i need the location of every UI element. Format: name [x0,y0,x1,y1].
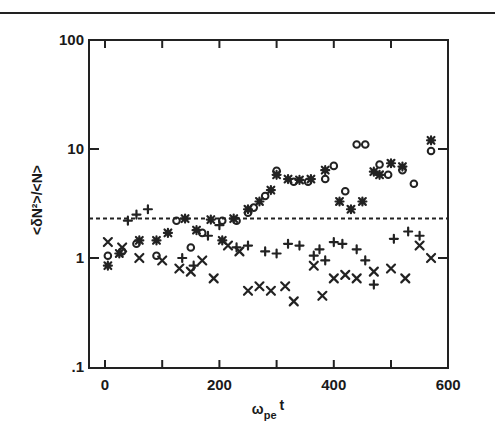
data-point-plus [390,235,398,243]
data-point-cross [341,271,349,279]
data-point-cross [104,238,112,246]
data-point-plus [338,240,346,248]
data-point-asterisk [307,175,315,183]
data-point-circle [105,252,112,259]
x-axis-label-t: t [280,397,285,413]
axis-ticks [89,40,448,368]
data-point-cross [158,256,166,264]
data-point-cross [353,274,361,282]
y-tick-label: 100 [59,31,84,48]
y-tick-label: 10 [67,140,84,157]
data-point-circle [411,180,418,187]
data-point-cross [198,256,206,264]
data-point-asterisk [207,216,215,224]
data-point-cross [255,282,263,290]
data-point-asterisk [244,205,252,213]
y-tick-label: 1 [76,249,84,266]
data-point-plus [310,252,318,260]
data-point-circle [428,148,435,155]
data-point-plus [353,245,361,253]
data-point-asterisk [347,205,355,213]
data-point-cross [210,274,218,282]
data-point-asterisk [387,159,395,167]
data-point-plus [295,242,303,250]
data-point-cross [401,274,409,282]
data-point-asterisk [104,262,112,270]
data-point-circle [342,188,349,195]
data-point-asterisk [284,175,292,183]
data-point-asterisk [336,197,344,205]
data-point-circle [331,163,338,170]
data-point-asterisk [135,236,143,244]
data-point-circle [353,141,360,148]
data-point-asterisk [230,215,238,223]
data-point-circle [322,176,329,183]
data-point-plus [404,228,412,236]
data-point-cross [135,254,143,262]
data-point-circle [376,161,383,168]
data-point-asterisk [193,226,201,234]
data-point-plus [215,221,223,229]
y-axis-label: <δN²>/<N> [29,165,45,235]
data-point-asterisk [398,163,406,171]
data-point-plus [132,211,140,219]
x-tick-label: 0 [101,376,109,393]
data-point-circle [188,244,195,251]
data-point-cross [310,262,318,270]
data-point-asterisk [181,215,189,223]
data-point-asterisk [152,236,160,244]
data-point-asterisk [273,171,281,179]
data-point-plus [273,249,281,257]
data-point-cross [281,282,289,290]
x-tick-label: 400 [321,376,346,393]
data-point-cross [187,268,195,276]
data-point-asterisk [321,166,329,174]
data-point-circle [362,141,369,148]
data-point-plus [144,205,152,213]
y-tick-label: .1 [71,358,84,375]
data-point-cross [175,265,183,273]
x-axis-label-omega: ω [252,401,264,417]
data-point-plus [416,232,424,240]
data-point-cross [244,287,252,295]
data-point-cross [416,242,424,250]
x-axis-label: ωpet [252,397,285,421]
data-point-plus [316,245,324,253]
data-point-asterisk [427,136,435,144]
data-point-cross [427,254,435,262]
data-point-plus [284,240,292,248]
data-point-asterisk [376,171,384,179]
data-point-plus [361,256,369,264]
data-point-cross [290,297,298,305]
data-point-asterisk [255,197,263,205]
data-point-plus [261,247,269,255]
x-tick-label: 200 [207,376,232,393]
plot-frame [89,40,448,368]
data-point-asterisk [164,229,172,237]
data-point-plus [178,254,186,262]
data-point-plus [244,242,252,250]
axis-tick-labels: 0200400600.1110100 [59,31,461,393]
data-point-circle [385,171,392,178]
data-point-cross [387,265,395,273]
data-point-plus [370,281,378,289]
data-point-cross [370,268,378,276]
x-axis-label-subscript: pe [264,409,277,421]
data-markers [104,136,435,305]
data-point-plus [321,256,329,264]
data-point-cross [224,242,232,250]
data-point-asterisk [267,186,275,194]
data-point-asterisk [295,176,303,184]
x-tick-label: 600 [436,376,461,393]
y-axis-title: <δN²>/<N> [29,165,45,235]
data-point-circle [173,217,180,224]
data-point-asterisk [358,197,366,205]
data-point-cross [318,292,326,300]
scatter-plot: 0200400600.1110100 <δN²>/<N> ωpet [0,0,495,440]
data-point-cross [267,287,275,295]
data-point-plus [330,238,338,246]
data-point-cross [330,274,338,282]
